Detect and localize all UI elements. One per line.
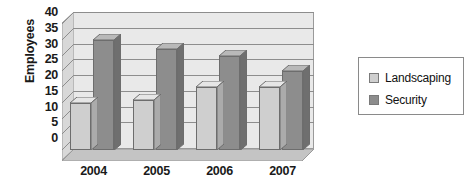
x-axis-tick-labels: 2004200520062007 xyxy=(62,164,314,184)
legend-item[interactable]: Security xyxy=(369,93,427,107)
bar-side-face xyxy=(240,50,247,151)
bar xyxy=(70,103,91,150)
bar-side-face xyxy=(217,81,224,150)
bar-front-face xyxy=(133,100,154,150)
bar-side-face xyxy=(177,43,184,150)
legend-label: Landscaping xyxy=(385,71,451,85)
plot-area xyxy=(62,12,314,160)
x-tick-label: 2007 xyxy=(251,164,314,178)
bar-side-face xyxy=(154,94,161,150)
bar-side-face xyxy=(114,34,121,150)
bar xyxy=(196,87,217,150)
legend-swatch-icon xyxy=(369,95,379,105)
y-tick-label: 10 xyxy=(28,102,58,112)
bar-series-group xyxy=(62,12,314,161)
x-tick-label: 2004 xyxy=(62,164,125,178)
chart-legend: LandscapingSecurity xyxy=(358,57,464,115)
bar-chart-figure: Employees 0510152025303540 2004200520062… xyxy=(0,0,476,195)
bar xyxy=(133,100,154,150)
bar-front-face xyxy=(70,103,91,150)
y-tick-label: 25 xyxy=(28,54,58,64)
x-tick-label: 2006 xyxy=(188,164,251,178)
bar-side-face xyxy=(303,65,310,150)
y-tick-label: 20 xyxy=(28,70,58,80)
y-tick-label: 5 xyxy=(28,117,58,127)
y-tick-label: 30 xyxy=(28,39,58,49)
x-tick-label: 2005 xyxy=(125,164,188,178)
bar xyxy=(259,87,280,150)
y-tick-label: 40 xyxy=(28,7,58,17)
bar-front-face xyxy=(196,87,217,150)
y-tick-label: 15 xyxy=(28,86,58,96)
y-tick-label: 0 xyxy=(28,133,58,143)
bar-side-face xyxy=(280,81,287,150)
y-tick-label: 35 xyxy=(28,23,58,33)
y-axis-tick-labels: 0510152025303540 xyxy=(28,0,58,195)
legend-item[interactable]: Landscaping xyxy=(369,71,451,85)
bar-front-face xyxy=(259,87,280,150)
legend-swatch-icon xyxy=(369,73,379,83)
bar-side-face xyxy=(91,97,98,150)
legend-label: Security xyxy=(385,93,427,107)
